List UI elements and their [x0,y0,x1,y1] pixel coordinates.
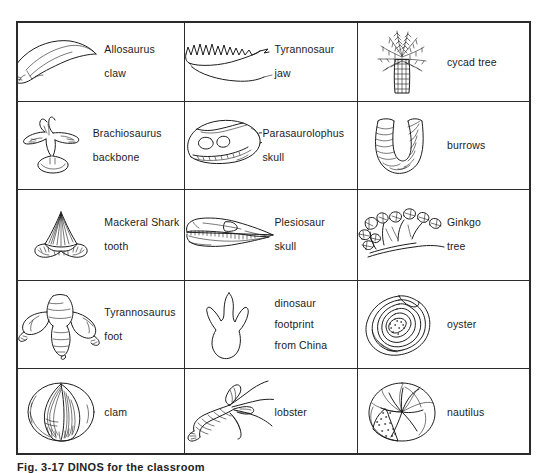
label-line: skull [262,146,284,170]
label-line: burrows [447,135,485,155]
label-dinosaur-footprint: dinosaur footprint from China [274,293,357,356]
label-line: claw [104,62,126,86]
brachiosaurus-backbone-icon [18,102,93,189]
label-line: Tyrannosaurus [104,301,175,325]
dino-specimen-grid: Allosaurus claw Tyrannosaur jaw [16,21,531,455]
oyster-icon [358,281,447,368]
ginkgo-tree-icon [358,190,447,280]
grid-cell-dinosaur-footprint: dinosaur footprint from China [185,281,358,369]
grid-cell-tyrannosaurus-foot: Tyrannosaurus foot [18,281,185,369]
label-line: Tyrannosaur [274,38,334,62]
label-allosaurus-claw: Allosaurus claw [104,38,184,85]
lobster-icon [185,369,274,455]
label-line: tooth [104,235,128,259]
label-clam: clam [104,402,184,422]
plesiosaur-skull-icon [185,190,274,280]
grid-cell-plesiosaur-skull: Plesiosaur skull [185,190,358,281]
grid-cell-nautilus: nautilus [358,369,529,455]
label-oyster: oyster [447,314,529,334]
label-line: tree [447,235,466,259]
grid-cell-mackeral-shark-tooth: Mackeral Shark tooth [18,190,185,281]
label-line: Parasaurolophus [262,122,344,146]
label-mackeral-shark-tooth: Mackeral Shark tooth [104,211,184,258]
grid-cell-tyrannosaur-jaw: Tyrannosaur jaw [185,23,358,102]
grid-cell-parasaurolophus-skull: Parasaurolophus skull [185,102,358,190]
label-tyrannosaurus-foot: Tyrannosaurus foot [104,301,184,348]
label-line: foot [104,325,122,349]
label-plesiosaur-skull: Plesiosaur skull [274,211,357,258]
grid-cell-cycad-tree: cycad tree [358,23,529,102]
label-line: Plesiosaur [274,211,325,235]
grid-cell-ginkgo-tree: Ginkgo tree [358,190,529,281]
label-burrows: burrows [447,135,529,155]
dinosaur-footprint-icon [185,281,274,368]
grid-cell-allosaurus-claw: Allosaurus claw [18,23,185,102]
label-line: skull [274,235,296,259]
grid-cell-oyster: oyster [358,281,529,369]
label-parasaurolophus-skull: Parasaurolophus skull [262,122,357,169]
parasaurolophus-skull-icon [185,102,262,189]
allosaurus-claw-icon [18,23,104,101]
label-line: dinosaur [274,293,315,314]
tyrannosaurus-foot-icon [18,281,104,368]
grid-cell-clam: clam [18,369,185,455]
grid-cell-lobster: lobster [185,369,358,455]
burrows-icon [358,102,447,189]
label-cycad-tree: cycad tree [447,52,529,72]
label-lobster: lobster [274,402,357,422]
cycad-tree-icon [358,23,447,101]
tyrannosaur-jaw-icon [185,23,274,101]
label-line: backbone [93,146,140,170]
grid-cell-brachiosaurus-backbone: Brachiosaurus backbone [18,102,185,190]
label-line: Ginkgo [447,211,481,235]
figure-caption: Fig. 3-17 DINOS for the classroom [17,461,205,473]
label-brachiosaurus-backbone: Brachiosaurus backbone [93,122,184,169]
label-tyrannosaur-jaw: Tyrannosaur jaw [274,38,357,85]
shark-tooth-icon [18,190,104,280]
label-ginkgo-tree: Ginkgo tree [447,211,529,258]
label-line: Mackeral Shark [104,211,179,235]
nautilus-icon [358,369,447,455]
label-line: footprint [274,314,313,335]
label-line: lobster [274,402,307,422]
label-line: clam [104,402,127,422]
label-line: cycad tree [447,52,497,72]
label-line: Brachiosaurus [93,122,162,146]
clam-icon [18,369,104,455]
label-nautilus: nautilus [447,402,529,422]
label-line: from China [274,335,327,356]
label-line: oyster [447,314,477,334]
label-line: Allosaurus [104,38,155,62]
label-line: nautilus [447,402,484,422]
grid-cell-burrows: burrows [358,102,529,190]
label-line: jaw [274,62,290,86]
